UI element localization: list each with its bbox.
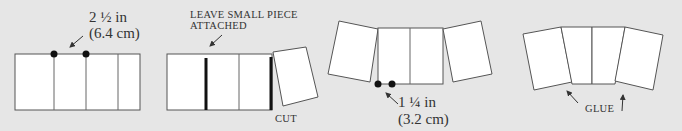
step-3-measure-cm: (3.2 cm) [398, 111, 449, 128]
step-3-measure-in: 1 ¼ in [398, 94, 436, 110]
step-4-panel-strip [523, 27, 663, 111]
step-2-panel-strip [167, 35, 318, 110]
pointer-arrow [622, 95, 623, 111]
step-2-note-line1: LEAVE SMALL PIECE [190, 9, 298, 20]
pointer-arrow [210, 35, 222, 46]
tilted-panel [273, 47, 318, 106]
pointer-arrow [70, 36, 83, 47]
step-3-panel-strip [328, 21, 492, 104]
pointer-arrow [386, 93, 398, 104]
step-2-cut-label: CUT [275, 113, 297, 124]
step-1-panel-strip [15, 36, 140, 110]
measure-dot-right [389, 81, 396, 88]
step-1-measure-cm: (6.4 cm) [89, 25, 140, 42]
step-1-measure-in: 2 ½ in [89, 9, 127, 25]
step-2-note-line2: ATTACHED [190, 20, 247, 31]
pointer-arrow [567, 91, 578, 103]
folding-diagram: 2 ½ in (6.4 cm) LEAVE SMALL PIECE ATTACH… [0, 0, 682, 131]
measure-dot-left [375, 81, 382, 88]
measure-dot-right [83, 51, 90, 58]
measure-dot-left [51, 51, 58, 58]
step-4-glue-label: GLUE [585, 103, 614, 114]
